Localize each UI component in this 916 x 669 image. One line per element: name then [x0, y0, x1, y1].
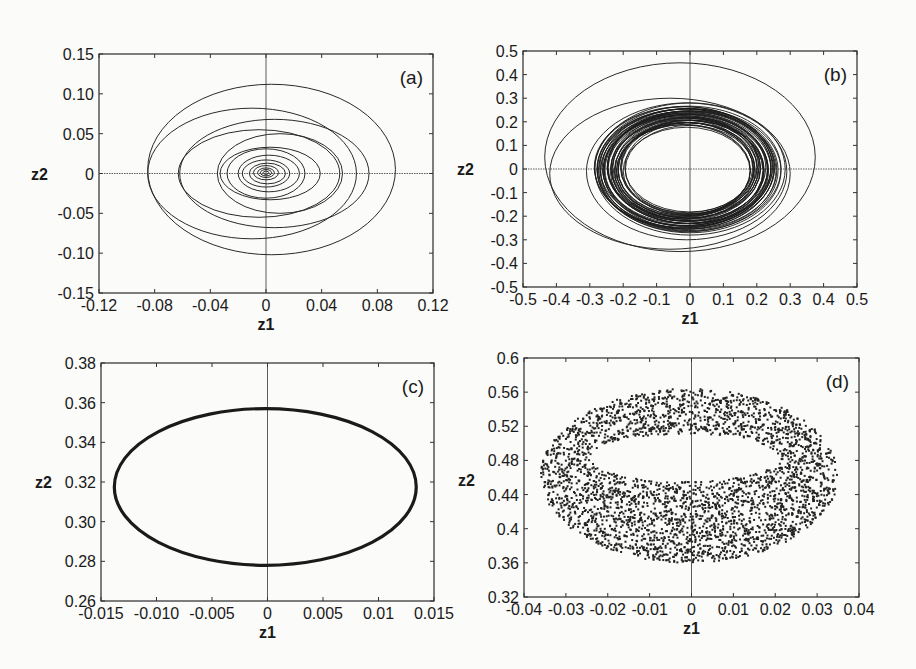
y-tick-label: 0.4 — [496, 67, 518, 84]
panel-label: (c) — [402, 376, 424, 397]
x-tick-label: 0.1 — [712, 291, 734, 308]
x-tick-label: -0.005 — [189, 605, 234, 622]
y-axis-label: z2 — [35, 474, 52, 491]
x-tick-label: 0.04 — [306, 297, 337, 314]
y-tick-label: 0.26 — [65, 593, 96, 610]
y-tick-label: 0.44 — [488, 487, 519, 504]
panel-label: (d) — [826, 371, 849, 392]
y-tick-label: 0.10 — [63, 86, 94, 103]
y-tick-label: 0.5 — [496, 43, 518, 60]
panel-label: (a) — [400, 67, 423, 88]
y-tick-label: 0 — [509, 161, 518, 178]
x-tick-label: 0.03 — [802, 601, 833, 618]
y-tick-label: 0.34 — [65, 434, 96, 451]
y-tick-label: 0.05 — [63, 126, 94, 143]
x-tick-label: 0.04 — [843, 601, 874, 618]
y-tick-label: 0.3 — [496, 90, 518, 107]
y-axis-ticks: 0.260.280.300.320.340.360.38 — [65, 355, 434, 610]
data-a — [148, 84, 396, 254]
y-tick-label: -0.10 — [58, 245, 95, 262]
y-axis-label: z2 — [457, 161, 474, 178]
x-axis-label: z1 — [682, 310, 699, 327]
x-tick-label: 0.2 — [746, 291, 768, 308]
x-axis-label: z1 — [683, 620, 700, 637]
x-tick-label: 0.08 — [362, 297, 393, 314]
y-tick-label: 0.15 — [63, 46, 94, 63]
y-tick-label: -0.5 — [490, 279, 518, 296]
x-tick-label: -0.08 — [136, 297, 173, 314]
x-tick-label: -0.1 — [643, 291, 671, 308]
x-tick-label: -0.01 — [631, 601, 668, 618]
panel-label: (b) — [824, 64, 847, 85]
x-tick-label: 0.01 — [718, 601, 749, 618]
y-tick-label: -0.3 — [490, 232, 518, 249]
y-tick-label: 0.36 — [65, 395, 96, 412]
panel-a: -0.12-0.08-0.0400.040.080.12-0.15-0.10-0… — [31, 46, 449, 333]
zero-lines — [99, 54, 433, 293]
x-tick-label: 0 — [263, 605, 272, 622]
x-axis-label: z1 — [259, 624, 276, 641]
x-tick-label: 0 — [686, 291, 695, 308]
y-tick-label: 0.6 — [497, 350, 519, 367]
x-tick-label: -0.04 — [192, 297, 229, 314]
x-axis-label: z1 — [258, 316, 275, 333]
x-tick-label: -0.2 — [609, 291, 637, 308]
x-tick-label: -0.010 — [134, 605, 179, 622]
y-tick-label: -0.1 — [490, 185, 518, 202]
x-tick-label: 0.5 — [846, 291, 868, 308]
y-tick-label: 0.4 — [497, 521, 519, 538]
y-tick-label: -0.15 — [58, 285, 95, 302]
x-tick-label: 0.01 — [363, 605, 394, 622]
x-tick-label: -0.3 — [576, 291, 604, 308]
x-tick-label: 0.005 — [303, 605, 343, 622]
x-tick-label: 0.12 — [417, 297, 448, 314]
y-tick-label: 0.56 — [488, 384, 519, 401]
data-b — [545, 63, 816, 252]
x-tick-label: 0.015 — [414, 605, 454, 622]
x-tick-label: 0.4 — [812, 291, 834, 308]
x-tick-label: 0 — [262, 297, 271, 314]
panel-b: -0.5-0.4-0.3-0.2-0.100.10.20.30.40.5-0.5… — [457, 43, 868, 327]
x-tick-label: 0.02 — [760, 601, 791, 618]
x-tick-label: -0.02 — [590, 601, 627, 618]
y-tick-label: -0.2 — [490, 208, 518, 225]
panel-d: -0.04-0.03-0.02-0.0100.010.020.030.040.3… — [458, 350, 875, 637]
y-tick-label: 0.2 — [496, 114, 518, 131]
y-tick-label: 0.36 — [488, 555, 519, 572]
y-tick-label: 0.30 — [65, 514, 96, 531]
y-tick-label: 0.32 — [488, 589, 519, 606]
x-axis-ticks: -0.04-0.03-0.02-0.0100.010.020.030.04 — [506, 358, 875, 618]
y-tick-label: 0.32 — [65, 474, 96, 491]
x-tick-label: 0.3 — [779, 291, 801, 308]
y-tick-label: 0.28 — [65, 553, 96, 570]
x-tick-label: 0 — [687, 601, 696, 618]
y-tick-label: 0.38 — [65, 355, 96, 372]
y-tick-label: 0 — [85, 166, 94, 183]
y-axis-label: z2 — [31, 166, 48, 183]
figure: -0.12-0.08-0.0400.040.080.12-0.15-0.10-0… — [0, 0, 916, 669]
data-c — [114, 409, 416, 566]
y-tick-label: 0.1 — [496, 137, 518, 154]
y-tick-label: -0.05 — [58, 205, 95, 222]
y-tick-label: 0.52 — [488, 418, 519, 435]
x-axis-ticks: -0.5-0.4-0.3-0.2-0.100.10.20.30.40.5 — [509, 51, 868, 308]
x-tick-label: -0.4 — [543, 291, 571, 308]
data-d — [540, 388, 838, 563]
x-tick-label: -0.03 — [548, 601, 585, 618]
y-axis-label: z2 — [458, 472, 475, 489]
y-tick-label: 0.48 — [488, 452, 519, 469]
y-axis-ticks: -0.15-0.10-0.0500.050.100.15 — [58, 46, 433, 302]
y-tick-label: -0.4 — [490, 255, 518, 272]
x-axis-ticks: -0.015-0.010-0.00500.0050.010.015 — [78, 363, 454, 622]
panel-c: -0.015-0.010-0.00500.0050.010.0150.260.2… — [35, 355, 454, 641]
